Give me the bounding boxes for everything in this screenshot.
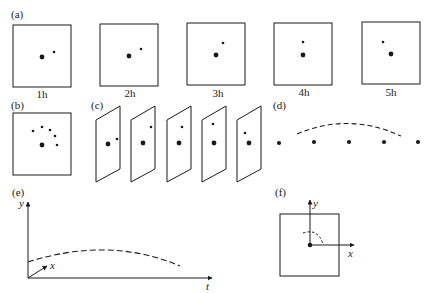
- orbit-dot: [56, 144, 59, 147]
- panel-c: (c): [91, 99, 261, 182]
- dashed-arc: [297, 123, 401, 136]
- trajectory-dot: [277, 141, 281, 145]
- central-dot: [40, 143, 45, 148]
- frame-1h: 1h: [13, 25, 71, 100]
- trajectory-dot: [347, 140, 351, 144]
- panel-f-label: (f): [275, 186, 286, 199]
- orbit-dot: [41, 126, 44, 129]
- skewed-frame-3: [167, 106, 191, 182]
- panel-d: (d): [273, 99, 420, 145]
- orbit-dot: [32, 130, 35, 133]
- figure-canvas: (a) 1h 2h 3h 4h: [0, 0, 431, 293]
- skewed-frame-1: [96, 106, 120, 182]
- skewed-frame-2: [131, 106, 155, 182]
- x-axis-label: x: [347, 247, 353, 259]
- frame-caption: 3h: [213, 87, 225, 99]
- orbiting-dot: [53, 51, 56, 54]
- central-dot: [40, 55, 45, 60]
- orbit-dot: [49, 129, 52, 132]
- trajectory-dot: [312, 140, 316, 144]
- skewed-frame-4: [202, 106, 226, 182]
- orbiting-dot: [382, 41, 385, 44]
- central-dot: [127, 54, 132, 59]
- dashed-arc: [303, 232, 323, 244]
- frame-caption: 2h: [125, 87, 137, 99]
- central-dot: [301, 53, 306, 58]
- trajectory-dot: [416, 140, 420, 144]
- frame-caption: 4h: [299, 86, 311, 98]
- panel-b-label: (b): [11, 99, 24, 112]
- frame-caption: 5h: [386, 86, 398, 98]
- panel-a-label: (a): [11, 8, 24, 21]
- panel-c-label: (c): [91, 99, 104, 112]
- x-axis-label: x: [49, 259, 55, 271]
- panel-d-label: (d): [273, 99, 286, 112]
- frame-3h: 3h: [187, 23, 245, 99]
- frame-5h: 5h: [362, 22, 420, 98]
- origin-dot: [308, 243, 313, 248]
- trajectory-dot: [382, 140, 386, 144]
- frame-caption: 1h: [37, 88, 49, 100]
- orbiting-dot: [140, 48, 143, 51]
- panel-b: (b): [11, 99, 71, 175]
- panel-e: (e) y x t: [12, 186, 212, 292]
- orbiting-dot: [222, 42, 225, 45]
- skewed-frame-5: [237, 106, 261, 182]
- y-axis-label: y: [312, 197, 318, 209]
- y-axis-label: y: [18, 197, 24, 209]
- frame-2h: 2h: [100, 24, 158, 99]
- panel-a: (a) 1h 2h 3h 4h: [11, 8, 420, 100]
- orbiting-dot: [302, 41, 305, 44]
- orbit-dot: [54, 135, 57, 138]
- frame-4h: 4h: [274, 23, 332, 98]
- central-dot: [214, 53, 219, 58]
- t-axis-label: t: [206, 280, 210, 292]
- x-axis: [28, 266, 47, 278]
- central-dot: [389, 52, 394, 57]
- panel-f: (f) y x: [275, 186, 354, 276]
